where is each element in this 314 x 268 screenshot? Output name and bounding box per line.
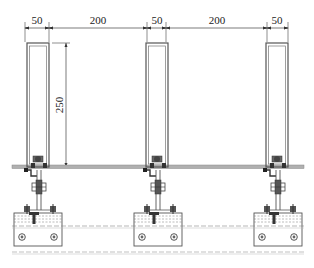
technical-drawing: 50 200 50 200 50 250	[0, 0, 314, 268]
dim-label-200-right: 200	[209, 14, 226, 26]
mullion-assembly-2	[143, 43, 170, 210]
vertical-dimension: 250	[52, 43, 70, 167]
mullion-assembly-3	[263, 43, 290, 210]
dimension-chain: 50 200 50 200 50	[25, 14, 288, 42]
dim-label-50-left: 50	[32, 14, 44, 26]
dim-label-50-middle: 50	[152, 14, 164, 26]
dim-label-200-left: 200	[90, 14, 107, 26]
mullion-assembly-1	[24, 43, 51, 210]
dim-label-50-right: 50	[272, 14, 284, 26]
dim-label-250: 250	[53, 96, 65, 113]
